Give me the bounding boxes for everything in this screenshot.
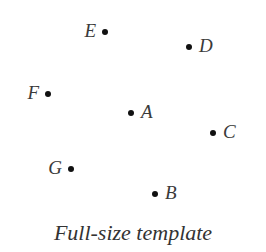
figure-caption: Full-size template (0, 222, 266, 244)
dot-d (186, 44, 192, 50)
label-f: F (27, 83, 39, 102)
dot-f (45, 91, 51, 97)
label-g: G (48, 158, 62, 177)
dot-g (68, 166, 74, 172)
template-diagram: E D F A C G B Full-size template (0, 0, 266, 252)
label-e: E (84, 21, 96, 40)
label-d: D (199, 36, 213, 55)
label-a: A (141, 102, 153, 121)
dot-b (152, 191, 158, 197)
dot-c (210, 130, 216, 136)
label-b: B (165, 183, 177, 202)
dot-e (102, 29, 108, 35)
dot-a (128, 110, 134, 116)
label-c: C (223, 122, 236, 141)
